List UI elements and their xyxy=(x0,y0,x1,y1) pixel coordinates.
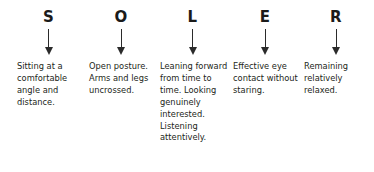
arrow-head xyxy=(45,47,53,55)
acronym-letter-e: E xyxy=(229,9,301,25)
soler-column-e: E Effective eye contact without staring. xyxy=(229,0,301,172)
arrow-head xyxy=(261,47,269,55)
arrow-stem xyxy=(192,29,193,49)
acronym-letter-l: L xyxy=(156,9,229,25)
arrow-head xyxy=(189,47,197,55)
description-text-l: Leaning forward from time to time. Looki… xyxy=(160,61,228,144)
soler-column-r: R Remaining relatively relaxed. xyxy=(300,0,372,172)
arrow-down-icon xyxy=(156,29,229,57)
arrow-head xyxy=(332,47,340,55)
arrow-down-icon xyxy=(229,29,301,57)
arrow-stem xyxy=(336,29,337,49)
arrow-down-icon xyxy=(13,29,84,57)
description-text-e: Effective eye contact without staring. xyxy=(233,61,301,97)
soler-column-l: L Leaning forward from time to time. Loo… xyxy=(156,0,229,172)
acronym-letter-s: S xyxy=(13,9,84,25)
arrow-stem xyxy=(48,29,49,49)
acronym-letter-o: O xyxy=(85,9,157,25)
acronym-letter-r: R xyxy=(300,9,372,25)
arrow-down-icon xyxy=(300,29,372,57)
arrow-head xyxy=(117,47,125,55)
arrow-down-icon xyxy=(85,29,157,57)
description-text-o: Open posture. Arms and legs uncrossed. xyxy=(89,61,155,97)
arrow-stem xyxy=(121,29,122,49)
soler-column-o: O Open posture. Arms and legs uncrossed. xyxy=(85,0,157,172)
soler-column-s: S Sitting at a comfortable angle and dis… xyxy=(13,0,84,172)
description-text-s: Sitting at a comfortable angle and dista… xyxy=(17,61,83,109)
soler-acronym-diagram: S Sitting at a comfortable angle and dis… xyxy=(0,0,374,172)
arrow-stem xyxy=(265,29,266,49)
description-text-r: Remaining relatively relaxed. xyxy=(304,61,372,97)
